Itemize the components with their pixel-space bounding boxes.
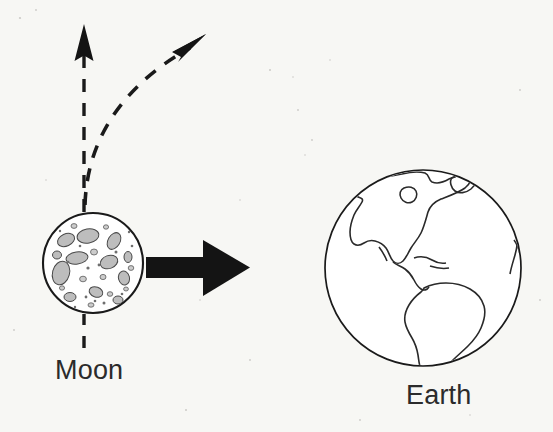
arrowhead-right-icon bbox=[203, 240, 250, 296]
moon-label: Moon bbox=[55, 355, 123, 386]
arrowhead-up-icon bbox=[75, 24, 94, 61]
arrow-shaft bbox=[146, 257, 212, 278]
solid-gravity-arrow bbox=[146, 240, 250, 296]
moon-body bbox=[43, 213, 143, 313]
curved-dashed-path bbox=[85, 48, 190, 205]
curved-dashed-path-arrow bbox=[85, 34, 206, 205]
arrowhead-up-right-fill bbox=[172, 34, 206, 62]
earth-circle bbox=[325, 170, 521, 366]
earth-label: Earth bbox=[406, 380, 472, 411]
earth-body bbox=[325, 170, 521, 381]
